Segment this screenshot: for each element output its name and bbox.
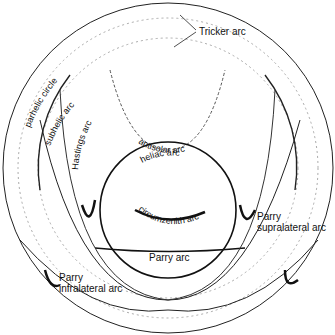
label-parry-infralateral-1: Parry xyxy=(59,272,83,283)
halo-diagram: parhelic circle subhelic arc Hastings ar… xyxy=(0,0,335,335)
label-parry-infralateral-2: infralateral arc xyxy=(59,283,122,294)
label-subhelic-arc: subhelic arc xyxy=(43,99,77,146)
label-parry-arc: Parry arc xyxy=(149,252,190,263)
svg-text:Hastings arc: Hastings arc xyxy=(70,118,94,170)
label-hastings-arc: Hastings arc xyxy=(70,118,94,170)
svg-text:subhelic arc: subhelic arc xyxy=(43,99,77,146)
label-parry-supralateral-1: Parry xyxy=(257,211,281,222)
label-heliac-arc: heliac arc xyxy=(138,147,180,164)
halo-arcs-drawing: parhelic circle subhelic arc Hastings ar… xyxy=(0,0,335,335)
label-circumzenith-arc: circumzenith arc xyxy=(137,204,201,226)
label-tricker-arc: Tricker arc xyxy=(199,26,246,37)
svg-text:circumzenith arc: circumzenith arc xyxy=(137,204,201,226)
label-parry-supralateral-2: supralateral arc xyxy=(257,222,326,233)
svg-text:heliac arc: heliac arc xyxy=(138,147,180,164)
